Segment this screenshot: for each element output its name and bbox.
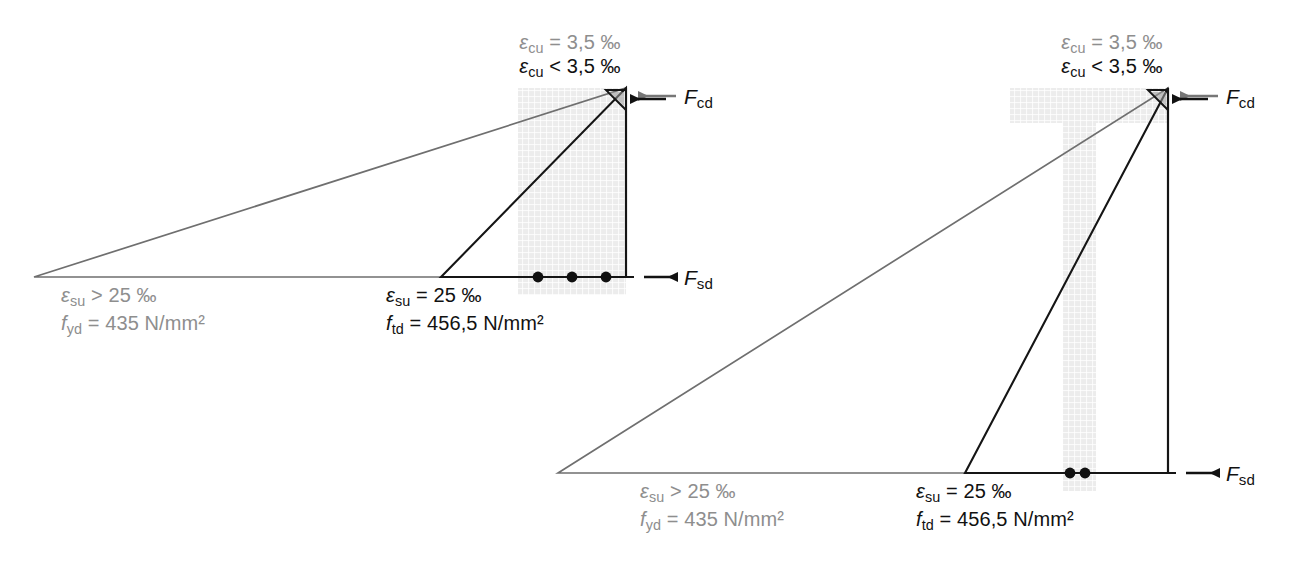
tee-eps-cu-black-rel: < <box>1091 55 1103 77</box>
rect-eps-su-gray-val: 25 ‰ <box>108 284 156 306</box>
rect-fyd-gray-label: fyd = 435 N/mm² <box>61 311 205 337</box>
rebar-dot <box>601 272 612 283</box>
rect-eps-su-black-rel: = <box>416 284 428 306</box>
tee-ftd-black-label: ftd = 456,5 N/mm² <box>916 507 1074 533</box>
rect-ftd-sub: td <box>392 321 404 337</box>
diagram-rectangular-section <box>34 88 678 295</box>
rect-fcd-force-label: Fcd <box>684 85 713 109</box>
tee-eps-su-black-sub: su <box>925 489 940 505</box>
rect-fcd-symbol: F <box>684 85 697 108</box>
tee-fyd-rel: = <box>667 508 679 530</box>
rect-eps-su-black-label: εsu = 25 ‰ <box>386 283 482 309</box>
rect-eps-cu-gray-val: 3,5 ‰ <box>567 31 621 53</box>
tee-fyd-sub: yd <box>646 517 661 533</box>
tee-eps-su-black-label: εsu = 25 ‰ <box>916 479 1012 505</box>
tee-fcd-sub: cd <box>1239 94 1255 111</box>
concrete-section-web <box>1063 123 1096 491</box>
rect-eps-su-gray-sub: su <box>70 293 85 309</box>
tee-fcd-symbol: F <box>1226 85 1239 108</box>
rect-ftd-symbol: f <box>386 312 392 334</box>
rect-eps-su-black-val: 25 ‰ <box>433 284 481 306</box>
rect-fyd-sub: yd <box>67 321 82 337</box>
tee-eps-su-gray-rel: > <box>670 480 682 502</box>
tee-eps-cu-gray-rel: = <box>1091 31 1103 53</box>
concrete-section-rectangle <box>518 88 626 295</box>
tee-fyd-val: 435 N/mm² <box>684 508 784 530</box>
tee-fsd-symbol: F <box>1226 462 1239 485</box>
rect-eps-cu-black-sub: cu <box>528 64 543 80</box>
rect-eps-su-gray-rel: > <box>91 284 103 306</box>
rect-ftd-rel: = <box>410 312 422 334</box>
rect-eps-su-gray-label: εsu > 25 ‰ <box>61 283 157 309</box>
rect-fsd-symbol: F <box>684 266 697 289</box>
concrete-section-flange <box>1010 88 1168 123</box>
tee-fsd-force-label: Fsd <box>1226 462 1255 486</box>
rect-eps-cu-black-rel: < <box>549 55 561 77</box>
rect-eps-su-black-sub: su <box>395 293 410 309</box>
rect-eps-cu-black-val: 3,5 ‰ <box>567 55 621 77</box>
rect-fcd-sub: cd <box>697 94 713 111</box>
tee-eps-cu-black-sub: cu <box>1070 64 1085 80</box>
rebar-dot <box>533 272 544 283</box>
rect-fyd-val: 435 N/mm² <box>105 312 205 334</box>
tee-eps-cu-black-label: εcu < 3,5 ‰ <box>1061 54 1162 80</box>
rect-fsd-sub: sd <box>697 275 713 292</box>
tee-fyd-gray-label: fyd = 435 N/mm² <box>640 507 784 533</box>
rect-ftd-black-label: ftd = 456,5 N/mm² <box>386 311 544 337</box>
tee-eps-su-gray-sub: su <box>649 489 664 505</box>
tee-ftd-val: 456,5 N/mm² <box>957 508 1074 530</box>
rect-eps-cu-gray-label: εcu = 3,5 ‰ <box>519 30 620 56</box>
rect-fyd-symbol: f <box>61 312 67 334</box>
rect-fsd-force-label: Fsd <box>684 266 713 290</box>
rect-fyd-rel: = <box>88 312 100 334</box>
rebar-dot <box>567 272 578 283</box>
tee-fcd-force-label: Fcd <box>1226 85 1255 109</box>
tee-eps-su-black-rel: = <box>946 480 958 502</box>
rect-ftd-val: 456,5 N/mm² <box>427 312 544 334</box>
tee-fsd-sub: sd <box>1239 471 1255 488</box>
tee-eps-su-black-val: 25 ‰ <box>963 480 1011 502</box>
tee-eps-cu-gray-val: 3,5 ‰ <box>1109 31 1163 53</box>
rebar-dot <box>1080 468 1091 479</box>
tee-eps-cu-gray-label: εcu = 3,5 ‰ <box>1061 30 1162 56</box>
tee-eps-su-gray-label: εsu > 25 ‰ <box>640 479 736 505</box>
tee-ftd-symbol: f <box>916 508 922 530</box>
tee-eps-su-gray-val: 25 ‰ <box>687 480 735 502</box>
tee-fyd-symbol: f <box>640 508 646 530</box>
rect-eps-cu-gray-rel: = <box>549 31 561 53</box>
rebar-dot <box>1065 468 1076 479</box>
rect-eps-cu-black-label: εcu < 3,5 ‰ <box>519 54 620 80</box>
diagram-t-section <box>558 88 1220 491</box>
tee-ftd-rel: = <box>940 508 952 530</box>
tee-eps-cu-black-val: 3,5 ‰ <box>1109 55 1163 77</box>
tee-ftd-sub: td <box>922 517 934 533</box>
diagram-canvas: εcu = 3,5 ‰ εcu < 3,5 ‰ εsu > 25 ‰ fyd =… <box>0 0 1295 564</box>
